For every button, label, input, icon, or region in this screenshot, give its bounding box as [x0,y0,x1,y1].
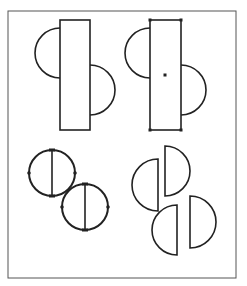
marker-top [49,149,55,152]
handle-center[interactable] [164,74,167,77]
rect-with-semicircles-plain [35,20,115,130]
handle-top-left[interactable] [149,19,152,22]
left-semicircle [125,28,150,78]
marker-top [82,183,88,186]
diagram-frame [8,11,236,278]
tall-rectangle [60,20,90,130]
right-semicircle [90,65,115,115]
half-disc-lower-left[interactable] [152,205,177,255]
handle-top-right[interactable] [180,19,183,22]
half-disc-upper-left[interactable] [132,159,158,211]
left-semicircle [35,28,60,78]
circle-with-diameter-1[interactable] [29,150,75,196]
half-disc-upper-right[interactable] [165,146,190,196]
diagram-canvas [0,0,247,286]
circle-with-diameter-2[interactable] [62,184,108,230]
marker-left [27,171,31,175]
handle-bottom-left[interactable] [149,129,152,132]
marker-right [106,205,110,209]
handle-bottom-right[interactable] [180,129,183,132]
marker-right [73,171,77,175]
marker-bottom [82,229,88,232]
half-disc-lower-right[interactable] [190,196,216,248]
marker-left [60,205,64,209]
marker-bottom [49,195,55,198]
right-semicircle [181,65,206,115]
